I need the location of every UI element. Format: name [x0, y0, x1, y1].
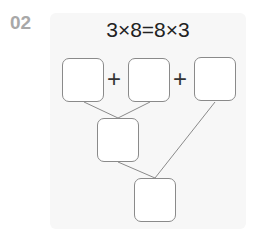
answer-box-top-2[interactable]	[128, 58, 170, 102]
plus-sign-1: +	[107, 67, 121, 91]
answer-box-top-3[interactable]	[194, 57, 236, 101]
answer-box-middle[interactable]	[97, 118, 139, 162]
connector-lines	[0, 0, 260, 233]
answer-box-bottom[interactable]	[134, 178, 176, 222]
answer-box-top-1[interactable]	[62, 58, 104, 102]
plus-sign-2: +	[173, 67, 187, 91]
